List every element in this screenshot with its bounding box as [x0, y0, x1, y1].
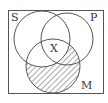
label-m: M	[81, 79, 92, 92]
label-p: P	[90, 11, 98, 24]
label-s: S	[11, 11, 19, 24]
venn-diagram: S P M X	[0, 0, 108, 103]
mark-x: X	[50, 42, 58, 55]
